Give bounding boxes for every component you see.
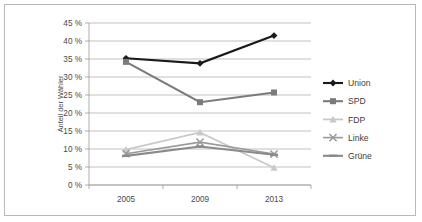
- legend-marker: [330, 80, 337, 87]
- series-line: [126, 62, 274, 102]
- legend-label: Grüne: [348, 151, 372, 161]
- legend-item-union[interactable]: Union: [323, 78, 371, 88]
- legend-label: SPD: [348, 96, 366, 106]
- legend-item-linke[interactable]: Linke: [323, 133, 369, 143]
- data-series-group: [122, 32, 278, 171]
- y-axis-tick-label: 30 %: [63, 73, 82, 82]
- legend-label: Union: [348, 78, 371, 88]
- legend-label: Linke: [348, 133, 369, 143]
- x-axis-tick-label: 2013: [265, 195, 284, 204]
- data-point: [271, 89, 277, 95]
- legend-item-spd[interactable]: SPD: [323, 96, 366, 106]
- series-union: [123, 32, 278, 67]
- series-fdp: [122, 129, 277, 171]
- y-axis-tick-label: 10 %: [63, 145, 82, 154]
- x-axis-tick-labels: 200520092013: [117, 195, 284, 204]
- y-axis-title: Anteil der Wähler: [56, 75, 65, 132]
- y-axis-tick-label: 5 %: [68, 163, 82, 172]
- chart-frame: 0 %5 %10 %15 %20 %25 %30 %35 %40 %45 % 2…: [4, 4, 416, 216]
- data-point: [123, 59, 129, 65]
- legend-item-grüne[interactable]: Grüne: [323, 151, 372, 161]
- series-linke: [122, 139, 277, 158]
- y-axis-tick-label: 25 %: [63, 91, 82, 100]
- x-axis-tick-label: 2005: [117, 195, 136, 204]
- y-axis-tick-label: 0 %: [68, 181, 82, 190]
- y-axis-tick-label: 35 %: [63, 55, 82, 64]
- y-axis-tick-label: 15 %: [63, 127, 82, 136]
- y-axis-title-text: Anteil der Wähler: [56, 75, 65, 132]
- x-axis-tick-label: 2009: [191, 195, 210, 204]
- y-axis-tick-labels: 0 %5 %10 %15 %20 %25 %30 %35 %40 %45 %: [63, 19, 82, 190]
- data-point: [271, 32, 278, 39]
- data-point: [197, 60, 204, 67]
- legend-marker: [330, 98, 336, 104]
- legend-label: FDP: [348, 115, 365, 125]
- legend-item-fdp[interactable]: FDP: [323, 115, 365, 125]
- y-axis-tick-label: 40 %: [63, 37, 82, 46]
- line-chart: 0 %5 %10 %15 %20 %25 %30 %35 %40 %45 % 2…: [5, 5, 415, 215]
- data-point: [197, 99, 203, 105]
- y-axis-tick-label: 20 %: [63, 109, 82, 118]
- y-axis-tick-label: 45 %: [63, 19, 82, 28]
- chart-legend: UnionSPDFDPLinkeGrüne: [323, 78, 372, 161]
- axis-tickmarks: [85, 23, 311, 189]
